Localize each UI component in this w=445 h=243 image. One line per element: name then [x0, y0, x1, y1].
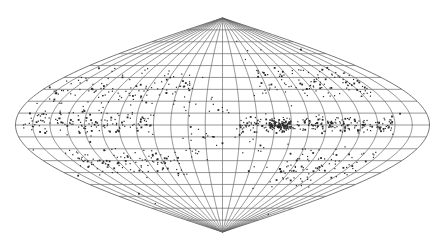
- data-point: [118, 93, 119, 94]
- data-point: [79, 89, 80, 90]
- data-point: [306, 119, 307, 120]
- data-point: [329, 124, 331, 126]
- data-point: [342, 82, 343, 83]
- data-point: [168, 84, 169, 85]
- data-point: [245, 59, 246, 60]
- data-point: [247, 50, 248, 51]
- data-point: [243, 127, 244, 128]
- data-point: [107, 125, 108, 126]
- data-point: [174, 159, 175, 160]
- data-point: [276, 179, 278, 181]
- data-point: [351, 165, 353, 167]
- data-point: [330, 95, 331, 96]
- data-point: [186, 174, 187, 175]
- data-point: [295, 87, 296, 88]
- data-point: [322, 128, 323, 129]
- data-point: [168, 73, 169, 74]
- data-point: [286, 166, 287, 167]
- data-point: [151, 150, 152, 151]
- data-point: [316, 116, 317, 117]
- data-point: [284, 125, 286, 127]
- data-point: [349, 83, 350, 84]
- data-point: [269, 87, 270, 88]
- data-point: [270, 84, 272, 86]
- data-point: [313, 81, 315, 83]
- data-point: [235, 137, 236, 138]
- data-point: [389, 121, 390, 122]
- data-point: [289, 170, 290, 171]
- data-point: [308, 160, 309, 161]
- data-point: [166, 79, 168, 81]
- data-point: [40, 115, 41, 116]
- data-point: [211, 99, 212, 100]
- data-point: [291, 105, 292, 106]
- data-point: [104, 125, 105, 126]
- data-point: [147, 68, 148, 69]
- data-point: [85, 128, 86, 129]
- data-point: [324, 170, 326, 172]
- data-point: [322, 126, 324, 128]
- data-point: [177, 160, 178, 161]
- data-point: [295, 171, 296, 172]
- data-point: [260, 145, 262, 147]
- data-point: [140, 118, 142, 120]
- data-point: [121, 122, 123, 124]
- data-point: [291, 170, 292, 171]
- data-point: [64, 124, 65, 125]
- data-point: [360, 91, 361, 92]
- data-point: [315, 90, 316, 91]
- data-point: [279, 127, 280, 128]
- data-point: [317, 74, 318, 75]
- data-point: [125, 91, 126, 92]
- data-point: [321, 69, 323, 71]
- data-point: [309, 123, 310, 124]
- data-point: [300, 129, 301, 130]
- data-point: [325, 78, 327, 80]
- data-point: [139, 124, 140, 125]
- data-point: [357, 129, 359, 131]
- data-point: [319, 166, 321, 168]
- data-point: [285, 91, 286, 92]
- data-point: [46, 114, 47, 115]
- data-point: [189, 85, 190, 86]
- data-point: [302, 90, 303, 91]
- data-point: [103, 126, 104, 127]
- data-point: [190, 126, 192, 128]
- data-point: [344, 131, 345, 132]
- data-point: [89, 114, 91, 116]
- data-point: [275, 86, 276, 87]
- data-point: [317, 127, 318, 128]
- data-point: [49, 87, 51, 89]
- data-point: [344, 72, 345, 73]
- data-point: [331, 159, 332, 160]
- data-point: [278, 71, 279, 72]
- data-point: [362, 86, 363, 87]
- data-point: [151, 103, 152, 104]
- data-point: [358, 120, 359, 121]
- sky-map-chart: [0, 0, 445, 243]
- data-point: [142, 160, 143, 161]
- data-point: [297, 124, 298, 125]
- data-point: [60, 111, 61, 112]
- data-point: [69, 122, 70, 123]
- data-point: [266, 167, 267, 168]
- data-point: [175, 91, 176, 92]
- data-point: [40, 120, 41, 121]
- data-point: [109, 131, 111, 133]
- data-point: [290, 165, 291, 166]
- data-point: [328, 92, 329, 93]
- data-point: [391, 121, 393, 123]
- data-point: [309, 120, 311, 122]
- data-point: [389, 119, 390, 120]
- data-point: [53, 101, 54, 102]
- data-point: [167, 168, 169, 170]
- data-point: [81, 157, 82, 158]
- data-point: [356, 89, 358, 91]
- data-point: [242, 128, 243, 129]
- data-point: [98, 125, 99, 126]
- data-point: [202, 136, 204, 138]
- data-point: [39, 131, 41, 133]
- data-point: [253, 139, 254, 140]
- data-point: [102, 107, 103, 108]
- data-point: [228, 112, 229, 113]
